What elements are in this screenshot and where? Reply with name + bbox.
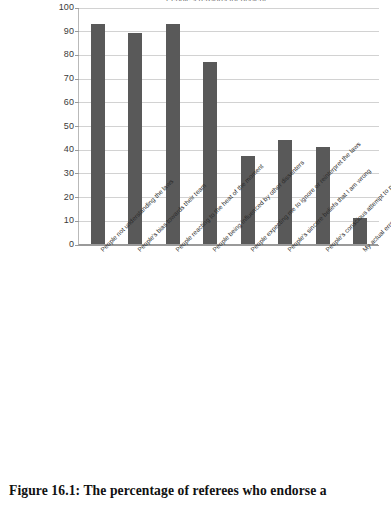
- x-axis-labels: People not understanding the lawsPeople'…: [0, 246, 391, 491]
- y-tick-label-60: 60: [48, 98, 74, 107]
- y-tick-10: [75, 221, 79, 222]
- gridline-40: [79, 150, 379, 151]
- gridline-100: [79, 8, 379, 9]
- bar-chart: People's reasons for dissent 01020304050…: [0, 0, 391, 250]
- bar: [278, 140, 292, 244]
- figure-caption: Figure 16.1: The percentage of referees …: [9, 483, 384, 499]
- y-tick-20: [75, 197, 79, 198]
- gridline-50: [79, 126, 379, 127]
- y-tick-label-10: 10: [48, 216, 74, 225]
- y-tick-100: [75, 8, 79, 9]
- chart-title: People's reasons for dissent: [96, 0, 336, 1]
- gridline-60: [79, 102, 379, 103]
- y-axis-labels: 0102030405060708090100: [44, 8, 74, 245]
- bar: [91, 24, 105, 244]
- gridline-30: [79, 173, 379, 174]
- y-tick-70: [75, 79, 79, 80]
- y-tick-80: [75, 55, 79, 56]
- y-tick-50: [75, 126, 79, 127]
- y-tick-90: [75, 31, 79, 32]
- y-tick-label-80: 80: [48, 50, 74, 59]
- y-tick-label-70: 70: [48, 74, 74, 83]
- y-tick-30: [75, 173, 79, 174]
- gridline-90: [79, 31, 379, 32]
- y-tick-label-30: 30: [48, 169, 74, 178]
- y-tick-40: [75, 150, 79, 151]
- bar: [316, 147, 330, 244]
- y-tick-label-20: 20: [48, 193, 74, 202]
- y-tick-label-100: 100: [48, 3, 74, 12]
- gridline-80: [79, 55, 379, 56]
- y-tick-label-90: 90: [48, 27, 74, 36]
- y-tick-label-40: 40: [48, 145, 74, 154]
- y-tick-label-50: 50: [48, 122, 74, 131]
- figure-container: People's reasons for dissent 01020304050…: [0, 0, 391, 508]
- y-tick-60: [75, 102, 79, 103]
- gridline-70: [79, 79, 379, 80]
